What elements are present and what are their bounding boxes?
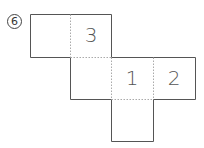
face-number-3: 3 bbox=[70, 14, 112, 56]
face-number-2: 2 bbox=[153, 57, 195, 99]
face-number-1: 1 bbox=[111, 57, 153, 99]
